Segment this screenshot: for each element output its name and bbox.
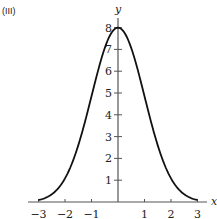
x-tick-label: 2 — [168, 208, 175, 219]
x-tick-label: −2 — [57, 208, 73, 219]
y-tick-label: 1 — [105, 174, 112, 187]
y-tick-label: 3 — [105, 131, 112, 144]
x-tick-label: 3 — [194, 208, 201, 219]
y-tick-label: 4 — [105, 109, 112, 122]
y-axis-label: y — [114, 3, 122, 16]
y-tick-label: 6 — [105, 65, 112, 78]
bell-curve-chart: −3−2−112312345678yx — [0, 0, 217, 219]
x-tick-label: 1 — [141, 208, 148, 219]
y-tick-label: 2 — [105, 152, 112, 165]
y-tick-label: 5 — [105, 87, 112, 100]
axes: −3−2−112312345678yx — [28, 3, 217, 219]
x-axis-label: x — [211, 195, 217, 208]
x-tick-label: −1 — [83, 208, 99, 219]
x-tick-label: −3 — [30, 208, 46, 219]
